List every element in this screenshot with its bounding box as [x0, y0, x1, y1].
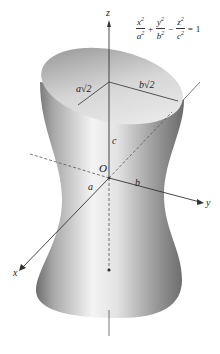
a-sqrt2-label: a√2	[76, 84, 92, 94]
hyperboloid-figure	[0, 0, 220, 354]
b-label: b	[135, 178, 140, 188]
equation: x2 a2 + y2 b2 − z2 c2 = 1	[136, 16, 200, 41]
a-label: a	[88, 182, 93, 192]
plus-operator: +	[148, 24, 153, 34]
c-label: c	[112, 136, 116, 146]
y-term: y2 b2	[156, 16, 165, 41]
origin-label: O	[99, 163, 107, 174]
y-axis-label: y	[206, 198, 210, 208]
x-axis-label: x	[13, 268, 17, 278]
bottom-center-point	[107, 268, 110, 271]
z-axis-label: z	[106, 8, 110, 18]
equals-operator: =	[188, 24, 193, 34]
x-term: x2 a2	[136, 16, 145, 41]
z-term: z2 c2	[176, 16, 185, 41]
origin-point	[108, 177, 111, 180]
z-axis-arrow	[107, 20, 111, 27]
b-sqrt2-label: b√2	[139, 80, 155, 90]
minus-operator: −	[168, 24, 173, 34]
rhs-value: 1	[196, 24, 201, 34]
y-axis-arrow	[197, 199, 204, 205]
